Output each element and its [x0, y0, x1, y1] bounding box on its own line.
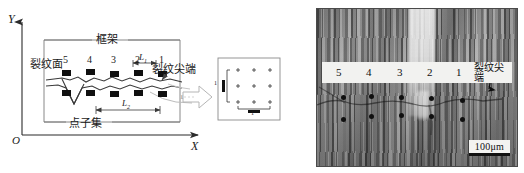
micrograph-dot-upper-4 — [369, 94, 374, 99]
micrograph-dot-lower-3 — [399, 113, 404, 118]
length-1-label: L1 — [139, 52, 147, 64]
y-axis-label: Y — [8, 12, 15, 27]
point-subset-inset — [218, 58, 280, 120]
inset-vertical-scale-label: 1 — [214, 80, 217, 86]
crack-path-upper — [46, 77, 182, 82]
length-2-subscript: 2 — [127, 104, 130, 110]
schematic-column-label-3: 3 — [111, 54, 116, 65]
schematic-column-label-1: 1 — [159, 54, 164, 65]
micrograph-label-strip: 5 4 3 2 1 裂纹尖端 — [322, 62, 512, 83]
schematic-column-label-5: 5 — [63, 54, 68, 65]
micrograph-dot-lower-4 — [369, 114, 374, 119]
expand-arrow-icon — [183, 86, 212, 108]
x-axis-label: X — [191, 139, 198, 154]
micrograph-column-label-4: 4 — [366, 67, 372, 78]
micrograph-column-label-2: 2 — [427, 67, 433, 78]
micrograph-column-label-3: 3 — [397, 67, 403, 78]
micrograph-dot-upper-5 — [341, 95, 346, 100]
micrograph-column-label-5: 5 — [336, 67, 342, 78]
length-2-label: L2 — [122, 98, 130, 110]
micrograph-dot-upper-3 — [399, 95, 404, 100]
frame-label: 框架 — [96, 30, 118, 46]
micrograph-dot-lower-1 — [460, 117, 465, 122]
length-1-subscript: 1 — [144, 58, 147, 64]
inset-pointer-label: 1 — [180, 93, 184, 101]
schematic-column-label-4: 4 — [87, 54, 92, 65]
point-subset-label: 点子集 — [69, 114, 102, 130]
crack-surface-label: 裂纹面 — [30, 55, 63, 71]
micrograph-dot-upper-1 — [460, 98, 465, 103]
micrograph-panel: 5 4 3 2 1 裂纹尖端 100μm — [316, 8, 518, 167]
micrograph-crack-tip-label: 裂纹尖端 — [474, 63, 512, 83]
micrograph-dot-upper-2 — [429, 96, 434, 101]
micrograph-dot-lower-2 — [429, 114, 434, 119]
left-schematic-panel: Y X O 框架 裂纹面 裂纹尖端 点子集 5 4 3 2 1 L1 L2 1 … — [0, 0, 290, 173]
scale-bar: 100μm — [469, 140, 510, 156]
schematic-svg — [0, 0, 290, 173]
figure-root: Y X O 框架 裂纹面 裂纹尖端 点子集 5 4 3 2 1 L1 L2 1 … — [0, 0, 524, 173]
origin-label: O — [12, 134, 20, 146]
micrograph-column-label-1: 1 — [456, 67, 462, 78]
inset-horizontal-scale-label: 1 — [251, 110, 254, 116]
micrograph-dot-lower-5 — [341, 117, 346, 122]
